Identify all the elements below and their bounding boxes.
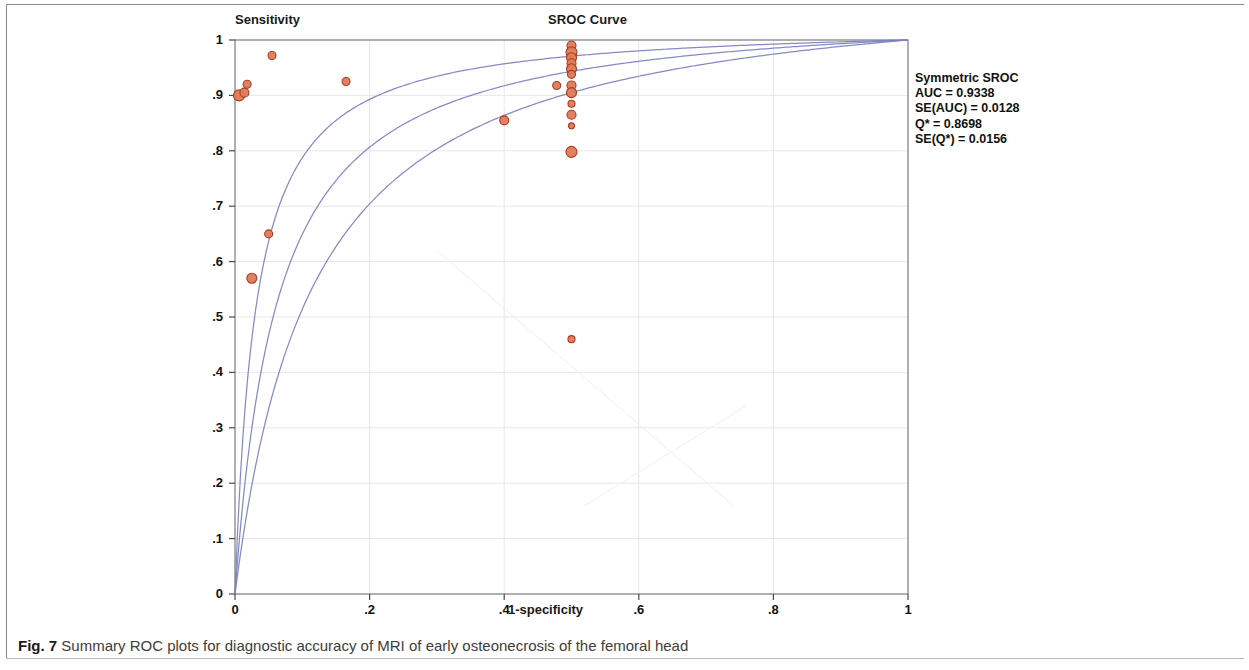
stats-qstar: Q* = 0.8698 xyxy=(915,117,1020,132)
x-axis-title: 1-specificity xyxy=(0,602,1249,617)
data-point xyxy=(500,116,509,125)
y-tick-label: .7 xyxy=(197,198,223,213)
data-point xyxy=(247,273,257,283)
y-tick-label: .2 xyxy=(197,475,223,490)
scanned-page: Sensitivity SROC Curve 0.2.4.6.810.1.2.3… xyxy=(0,0,1249,670)
data-point xyxy=(265,230,273,238)
y-tick-label: .4 xyxy=(197,364,223,379)
data-point xyxy=(569,123,575,129)
stats-heading: Symmetric SROC xyxy=(915,71,1020,86)
page-border-bottom xyxy=(6,658,1244,659)
data-point xyxy=(566,146,577,157)
y-tick-label: 1 xyxy=(197,32,223,47)
stats-auc: AUC = 0.9338 xyxy=(915,86,1020,101)
y-tick-label: .5 xyxy=(197,309,223,324)
y-tick-label: .3 xyxy=(197,420,223,435)
data-point xyxy=(568,336,575,343)
data-point xyxy=(553,81,561,89)
y-tick-label: .6 xyxy=(197,254,223,269)
data-point xyxy=(568,100,575,107)
stats-se-auc: SE(AUC) = 0.0128 xyxy=(915,101,1020,116)
data-point xyxy=(567,88,577,98)
y-tick-label: .1 xyxy=(197,531,223,546)
data-point xyxy=(342,78,350,86)
y-tick-label: 0 xyxy=(197,586,223,601)
data-point xyxy=(568,70,576,78)
y-tick-label: .8 xyxy=(197,143,223,158)
caption-text: Summary ROC plots for diagnostic accurac… xyxy=(61,637,688,654)
data-point xyxy=(268,52,276,60)
stats-annotation: Symmetric SROC AUC = 0.9338 SE(AUC) = 0.… xyxy=(915,71,1020,147)
data-point xyxy=(567,110,576,119)
caption-label: Fig. 7 xyxy=(18,637,57,654)
y-tick-label: .9 xyxy=(197,87,223,102)
data-point xyxy=(240,88,249,97)
data-point xyxy=(243,80,251,88)
figure-caption: Fig. 7 Summary ROC plots for diagnostic … xyxy=(18,636,1218,656)
stats-se-qstar: SE(Q*) = 0.0156 xyxy=(915,132,1020,147)
x-axis-title-text: 1-specificity xyxy=(508,602,583,617)
sroc-figure: Sensitivity SROC Curve 0.2.4.6.810.1.2.3… xyxy=(0,0,1249,628)
sroc-scatter-plot xyxy=(0,0,1249,628)
